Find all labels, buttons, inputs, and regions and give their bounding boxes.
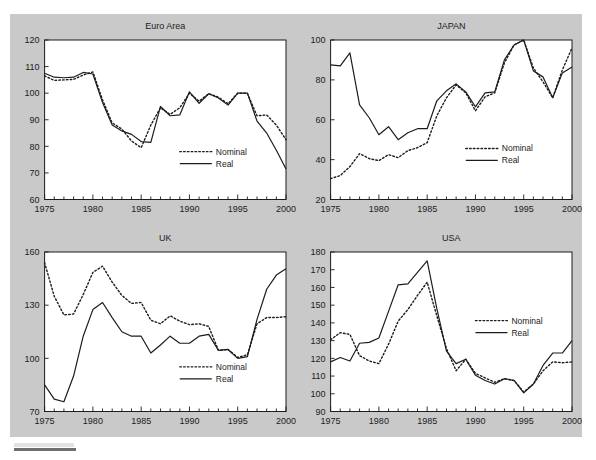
x-tick-label-euro-area: 1980 [83, 204, 103, 214]
scan-artifact-dark [14, 448, 76, 451]
plot-area-uk [45, 252, 286, 412]
y-tick-label-japan: 80 [316, 75, 326, 85]
x-tick-label-japan: 2000 [562, 204, 582, 214]
y-tick-label-uk: 130 [25, 300, 40, 310]
y-tick-label-euro-area: 100 [25, 88, 40, 98]
x-tick-label-uk: 1995 [228, 415, 248, 425]
y-tick-label-usa: 110 [311, 371, 325, 381]
chart-uk: UK70100130160197519801985199019952000Nom… [10, 226, 296, 438]
x-tick-label-japan: 1990 [465, 204, 485, 214]
plot-area-japan [331, 40, 572, 200]
chart-cell-japan: JAPAN20406080100197519801985199019952000… [296, 14, 582, 226]
y-tick-label-usa: 170 [311, 264, 326, 274]
chart-japan: JAPAN20406080100197519801985199019952000… [296, 14, 582, 226]
y-tick-label-japan: 60 [316, 115, 326, 125]
y-tick-label-usa: 160 [311, 282, 326, 292]
chart-title-euro-area: Euro Area [145, 21, 185, 31]
figure-panel-background: Euro Area6070809010011012019751980198519… [10, 14, 582, 437]
plot-area-euro-area [45, 40, 286, 200]
y-tick-label-euro-area: 90 [30, 115, 40, 125]
chart-cell-euro-area: Euro Area6070809010011012019751980198519… [10, 14, 296, 226]
y-tick-label-usa: 120 [311, 353, 326, 363]
legend-label-nominal: Nominal [502, 143, 533, 153]
y-tick-label-euro-area: 110 [25, 62, 39, 72]
legend-label-real: Real [216, 373, 234, 383]
chart-cell-uk: UK70100130160197519801985199019952000Nom… [10, 226, 296, 438]
y-tick-label-euro-area: 70 [30, 168, 40, 178]
legend-label-nominal: Nominal [511, 315, 542, 325]
x-tick-label-japan: 1985 [417, 204, 437, 214]
chart-cell-usa: USA9010011012013014015016017018019751980… [296, 226, 582, 438]
x-tick-label-usa: 2000 [562, 415, 582, 425]
y-tick-label-euro-area: 80 [30, 142, 40, 152]
legend-label-real: Real [511, 327, 529, 337]
y-tick-label-usa: 150 [311, 300, 326, 310]
x-tick-label-uk: 1990 [179, 415, 199, 425]
x-tick-label-japan: 1975 [321, 204, 341, 214]
x-tick-label-uk: 2000 [276, 415, 296, 425]
x-tick-label-usa: 1990 [465, 415, 485, 425]
chart-grid: Euro Area6070809010011012019751980198519… [10, 14, 582, 437]
legend-label-real: Real [216, 159, 234, 169]
x-tick-label-japan: 1995 [514, 204, 534, 214]
x-tick-label-usa: 1995 [514, 415, 534, 425]
x-tick-label-usa: 1980 [369, 415, 389, 425]
x-tick-label-uk: 1980 [83, 415, 103, 425]
x-tick-label-euro-area: 1975 [35, 204, 55, 214]
chart-title-usa: USA [442, 233, 461, 243]
chart-usa: USA9010011012013014015016017018019751980… [296, 226, 582, 438]
y-tick-label-japan: 40 [316, 155, 326, 165]
chart-title-uk: UK [159, 233, 172, 243]
legend-label-nominal: Nominal [216, 147, 247, 157]
legend-label-nominal: Nominal [216, 361, 247, 371]
x-tick-label-euro-area: 1985 [131, 204, 151, 214]
legend-label-real: Real [502, 155, 520, 165]
x-tick-label-japan: 1980 [369, 204, 389, 214]
y-tick-label-usa: 130 [311, 335, 326, 345]
x-tick-label-uk: 1985 [131, 415, 151, 425]
figure-page: Euro Area6070809010011012019751980198519… [0, 0, 596, 460]
x-tick-label-usa: 1975 [321, 415, 341, 425]
y-tick-label-uk: 160 [25, 247, 40, 257]
y-tick-label-usa: 180 [311, 247, 326, 257]
y-tick-label-usa: 100 [311, 388, 326, 398]
plot-area-usa [331, 252, 572, 412]
chart-title-japan: JAPAN [437, 21, 465, 31]
scan-artifact-light [14, 443, 74, 447]
y-tick-label-usa: 140 [311, 318, 326, 328]
y-tick-label-uk: 100 [25, 353, 40, 363]
x-tick-label-euro-area: 1990 [179, 204, 199, 214]
x-tick-label-uk: 1975 [35, 415, 55, 425]
x-tick-label-euro-area: 2000 [276, 204, 296, 214]
x-tick-label-usa: 1985 [417, 415, 437, 425]
x-tick-label-euro-area: 1995 [228, 204, 248, 214]
y-tick-label-japan: 100 [311, 35, 326, 45]
chart-euro-area: Euro Area6070809010011012019751980198519… [10, 14, 296, 226]
y-tick-label-euro-area: 120 [25, 35, 40, 45]
